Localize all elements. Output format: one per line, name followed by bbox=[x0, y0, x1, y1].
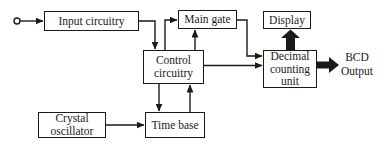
block-decimal-counting-unit-label: Decimal counting unit bbox=[265, 50, 315, 88]
block-control-circuitry: Control circuitry bbox=[143, 50, 204, 84]
block-display-label: Display bbox=[269, 14, 305, 27]
block-input-circuitry-label: Input circuitry bbox=[58, 15, 124, 28]
wire-main-gate-to-decimal bbox=[237, 20, 262, 56]
block-time-base-label: Time base bbox=[151, 119, 198, 132]
thick-arrow-decimal-to-display bbox=[281, 30, 300, 51]
wire-input-circuitry-to-control bbox=[139, 21, 155, 49]
block-control-circuitry-label: Control circuitry bbox=[145, 54, 202, 79]
block-time-base: Time base bbox=[145, 112, 205, 138]
block-decimal-counting-unit: Decimal counting unit bbox=[263, 50, 317, 88]
block-crystal-oscillator: Crystal oscillator bbox=[38, 112, 106, 138]
block-main-gate-label: Main gate bbox=[184, 13, 230, 26]
wire-control-to-main-gate-left bbox=[165, 20, 177, 50]
block-diagram: Input circuitry Main gate Display Contro… bbox=[0, 0, 387, 148]
block-main-gate: Main gate bbox=[178, 10, 237, 29]
block-display: Display bbox=[263, 11, 311, 29]
block-crystal-oscillator-label: Crystal oscillator bbox=[40, 112, 104, 137]
signal-input-terminal-icon bbox=[14, 18, 20, 24]
bcd-output-label: BCD Output bbox=[336, 50, 378, 78]
block-input-circuitry: Input circuitry bbox=[44, 11, 139, 31]
